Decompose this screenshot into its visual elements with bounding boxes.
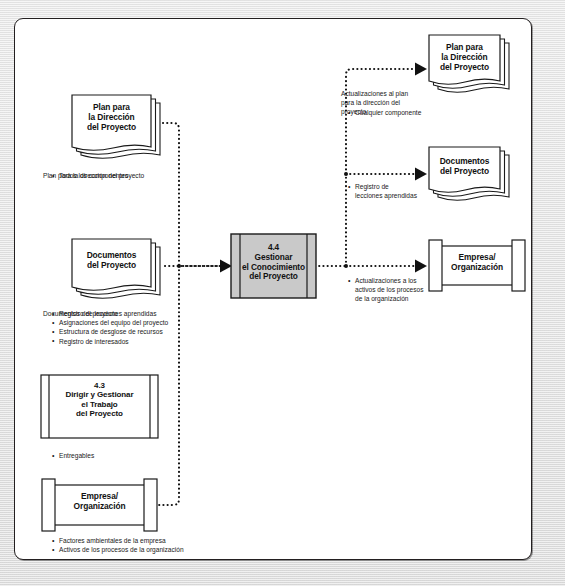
arrowhead-docs-out [415,168,427,181]
list-item: Registro de lecciones aprendidas [52,309,222,318]
arrowhead-empresa-out [415,260,427,273]
output-plan-line3: del Proyecto [429,63,500,73]
input-docs-line2: del Proyecto [72,261,151,271]
input-empresa-title: Empresa/ Organización [53,492,146,512]
junction-dot-right-docs [344,172,348,176]
input-documentos-title: Documentos del Proyecto [72,251,151,271]
list-item: Entregables [52,451,202,460]
output-documentos-title: Documentos del Proyecto [429,157,500,177]
input-proceso-43-title: 4.3 Dirigir y Gestionar el Trabajo del P… [49,381,150,419]
input-plan-line3: del Proyecto [72,123,151,133]
input-empresa-bullets: Factores ambientales de la empresa Activ… [52,536,247,554]
diagram-frame: Plan para la Dirección del Proyecto Plan… [14,18,532,560]
connector-layer [15,19,531,559]
input-documentos-bullets: Registro de lecciones aprendidas Asignac… [52,309,222,346]
junction-dot-left [177,264,181,268]
output-plan-direccion-title: Plan para la Dirección del Proyecto [429,43,500,73]
output-plan-bullets: Cualquier componente [348,108,436,117]
list-item: Asignaciones del equipo del proyecto [52,318,222,327]
output-empresa-title: Empresa/ Organización [439,253,515,273]
list-item: Cualquier componente [348,108,436,117]
process-44-line3: del Proyecto [236,272,311,282]
output-plan-caption: Actualizaciones al plan para la direcció… [341,80,429,125]
diagram-canvas: Plan para la Dirección del Proyecto Plan… [15,19,531,559]
output-empresa-line2: Organización [439,263,515,273]
list-item: Registro de lecciones aprendidas [348,182,433,200]
output-empresa-bullets: Actualizaciones a los activos de los pro… [348,276,438,304]
list-item: Registro de interesados [52,337,222,346]
input-43-number: 4.3 [49,381,150,390]
list-item: Estructura de desglose de recursos [52,327,222,336]
arrowhead-into-process [220,260,232,273]
list-item: Factores ambientales de la empresa [52,536,247,545]
list-item: Todos los componentes [52,171,202,180]
input-43-line2: Dirigir y Gestionar [49,390,150,399]
process-44-title: 4.4 Gestionar el Conocimiento del Proyec… [236,243,311,282]
input-plan-direccion-title: Plan para la Dirección del Proyecto [72,103,151,133]
output-docs-line2: del Proyecto [429,167,500,177]
arrowhead-plan-out [415,63,427,76]
input-43-line4: del Proyecto [49,409,150,418]
list-item: Activos de los procesos de la organizaci… [52,545,247,554]
junction-dot-right [344,264,348,268]
input-empresa-line2: Organización [53,502,146,512]
input-plan-bullets: Todos los componentes [52,171,202,180]
output-documentos-bullets: Registro de lecciones aprendidas [348,182,433,200]
input-43-line3: el Trabajo [49,400,150,409]
connector-plan-to-process [163,123,179,266]
input-proceso-43-bullets: Entregables [52,451,202,460]
list-item: Actualizaciones a los activos de los pro… [348,276,438,304]
